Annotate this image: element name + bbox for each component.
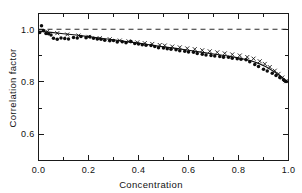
data-point-dot bbox=[222, 56, 226, 60]
data-point-dot bbox=[239, 57, 243, 61]
data-point-dot bbox=[52, 36, 56, 40]
data-point-dot bbox=[67, 37, 71, 41]
x-tick-label: 0.8 bbox=[232, 165, 245, 175]
data-point-dot bbox=[213, 54, 217, 58]
data-point-dot bbox=[72, 36, 76, 40]
x-tick-label: 1.0 bbox=[282, 165, 295, 175]
data-point-dot bbox=[166, 47, 170, 51]
data-point-dot bbox=[231, 56, 235, 60]
data-point-dot bbox=[227, 56, 231, 60]
data-point-dot bbox=[174, 48, 178, 52]
data-point-dot bbox=[49, 33, 53, 37]
x-tick-label: 0.6 bbox=[182, 165, 195, 175]
data-point-dot bbox=[42, 29, 46, 32]
figure-container: 0.00.20.40.60.81.0 0.60.81.0 Concentrati… bbox=[0, 0, 302, 193]
data-point-dot bbox=[63, 37, 67, 41]
data-point-dot bbox=[38, 31, 42, 35]
x-tick-label: 0.2 bbox=[82, 165, 95, 175]
data-point-dot bbox=[266, 69, 270, 73]
data-point-dot bbox=[40, 24, 44, 28]
y-axis-title: Correlation factor bbox=[7, 48, 18, 127]
data-point-dot bbox=[187, 50, 191, 54]
data-point-dot bbox=[178, 49, 182, 53]
data-point-dot bbox=[196, 52, 200, 56]
data-point-dot bbox=[236, 57, 240, 61]
data-point-dot bbox=[209, 54, 213, 58]
data-point-dot bbox=[56, 37, 60, 41]
data-point-dot bbox=[248, 60, 252, 64]
data-point-dot bbox=[112, 39, 116, 43]
x-tick-label: 0.0 bbox=[32, 165, 45, 175]
data-point-dot bbox=[192, 51, 196, 55]
data-point-dot bbox=[262, 67, 266, 71]
y-tick-label: 0.8 bbox=[21, 77, 34, 87]
x-tick-label: 0.4 bbox=[132, 165, 145, 175]
data-point-dot bbox=[253, 63, 257, 67]
chart-canvas: 0.00.20.40.60.81.0 0.60.81.0 Concentrati… bbox=[0, 0, 302, 193]
y-tick-label: 0.6 bbox=[21, 129, 34, 139]
data-point-dot bbox=[218, 55, 222, 59]
data-point-dot bbox=[92, 36, 96, 40]
data-point-dot bbox=[204, 53, 208, 57]
y-tick-label: 1.0 bbox=[21, 25, 34, 35]
data-point-dot bbox=[59, 36, 63, 40]
x-axis-title: Concentration bbox=[119, 179, 183, 190]
data-point-dot bbox=[103, 39, 107, 43]
data-point-dot bbox=[257, 65, 261, 69]
data-point-dot bbox=[201, 52, 205, 56]
